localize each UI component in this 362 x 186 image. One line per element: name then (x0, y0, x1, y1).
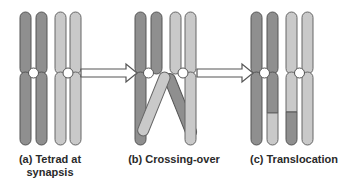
panel-a-label: (a) Tetrad at synapsis (10, 153, 90, 179)
panel-c-label: (c) Translocation (244, 153, 344, 166)
panel-a-tetrad (20, 12, 81, 145)
panel-c-label-line1: (c) Translocation (244, 153, 344, 166)
panel-b-crossing-over (135, 12, 198, 145)
arrow-b-to-c-icon (197, 64, 253, 82)
panel-c-translocation (251, 12, 313, 145)
arrow-a-to-b-icon (81, 64, 137, 82)
panel-a-label-line1: (a) Tetrad at (10, 153, 90, 166)
panel-a-label-line2: synapsis (10, 166, 90, 179)
panel-b-label: (b) Crossing-over (126, 153, 222, 166)
panel-b-label-line1: (b) Crossing-over (126, 153, 222, 166)
